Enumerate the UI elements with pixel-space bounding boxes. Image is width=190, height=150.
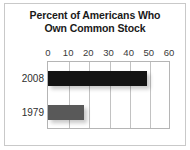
x-tick-label-10: 10 [63,46,74,59]
x-tick-label-0: 0 [45,46,50,59]
x-axis-tick-labels: 0102030405060 [47,46,170,59]
gridline-50 [150,62,151,128]
chart-figure: Percent of Americans Who Own Common Stoc… [0,0,190,150]
bar-1979 [48,105,84,120]
y-axis-category-labels: 20081979 [4,61,44,129]
y-tick-label-2008: 2008 [22,73,44,84]
bar-2008 [48,71,147,86]
chart-title-line-2: Own Common Stock [10,22,180,35]
x-tick-label-50: 50 [144,46,155,59]
y-tick-label-1979: 1979 [22,107,44,118]
chart-title-line-1: Percent of Americans Who [10,9,180,22]
x-tick-label-60: 60 [164,46,175,59]
chart-title: Percent of Americans Who Own Common Stoc… [10,9,180,35]
x-tick-label-40: 40 [123,46,134,59]
x-tick-label-20: 20 [83,46,94,59]
plot-area-wrapper [47,61,170,129]
x-tick-label-30: 30 [103,46,114,59]
